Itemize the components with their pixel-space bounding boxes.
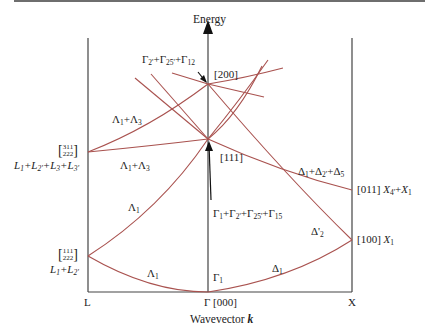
band-upper-left-1 — [135, 78, 208, 139]
label-lambda1-upper: Λ1 — [128, 202, 140, 215]
wavevector-symbol: k — [248, 313, 254, 325]
label-gamma1: Γ1 — [213, 272, 223, 285]
label-L-upper-irreps: L1+L2'+L3+L3' — [14, 160, 79, 173]
label-delta1: Δ1 — [272, 263, 283, 276]
wavevector-axis-label: Wavevector k — [190, 314, 253, 326]
label-gamma111-irreps: Γ1+Γ2'+Γ25'+Γ15 — [213, 208, 282, 221]
label-gamma200-irreps: Γ2'+Γ25'+Γ12 — [142, 54, 195, 67]
band-upper-left-2 — [151, 74, 208, 139]
label-lambda-upper: Λ1+Λ3 — [112, 114, 142, 127]
label-L-lower-k: [121212] — [58, 248, 78, 262]
label-delta-upper: Δ1+Δ2'+Δ5 — [298, 166, 344, 179]
label-lambda-mid: Λ1+Λ3 — [120, 160, 150, 173]
tick-L: L — [84, 297, 91, 308]
energy-axis-label: Energy — [193, 14, 226, 26]
wavevector-text: Wavevector — [190, 313, 245, 325]
band-upper-right-4 — [208, 84, 264, 97]
band-lambda1-upper — [88, 139, 208, 256]
tick-Gamma: Γ [000] — [204, 297, 237, 308]
label-X-lower: [100] X1 — [357, 234, 394, 247]
label-L-lower-irreps: L1+L2' — [50, 264, 79, 277]
label-X-upper: [011] X4'+X1 — [357, 184, 412, 197]
label-lambda1-lower: Λ1 — [147, 268, 159, 281]
gamma111-pointer — [209, 144, 211, 200]
label-delta2-prime: Δ'2 — [311, 226, 324, 239]
band-lambda1-lambda3-lower — [88, 139, 208, 152]
label-111: [111] — [220, 152, 243, 163]
label-L-upper-k: [321212] — [58, 144, 78, 158]
label-200: [200] — [214, 69, 238, 80]
tick-X: X — [348, 297, 356, 308]
